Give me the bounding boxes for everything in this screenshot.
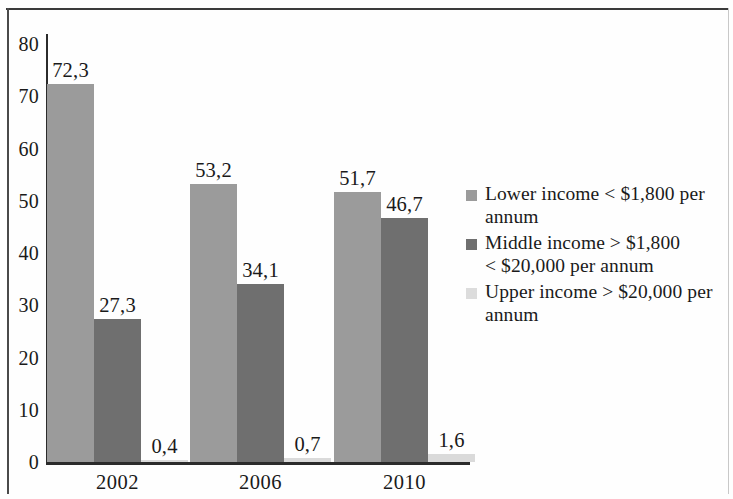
legend-color-swatch <box>466 190 477 201</box>
plot-area: 01020304050607080 72,327,30,453,234,10,7… <box>46 34 470 464</box>
page-border-top <box>6 8 728 10</box>
bar-value-label: 0,7 <box>294 434 320 455</box>
x-axis-line <box>46 462 470 465</box>
x-axis-tick-label: 2006 <box>239 472 282 493</box>
chart-page: 01020304050607080 72,327,30,453,234,10,7… <box>0 0 733 499</box>
legend-item-label: Lower income < $1,800 per annum <box>485 183 705 228</box>
legend-item: Lower income < $1,800 per annum <box>466 183 728 228</box>
legend-color-swatch <box>466 239 477 250</box>
y-axis-tick-label: 20 <box>18 347 39 367</box>
y-axis-tick-label: 10 <box>18 399 39 419</box>
bar-value-label: 72,3 <box>52 60 89 81</box>
bar <box>47 84 94 462</box>
bar <box>141 460 188 462</box>
page-border-right <box>728 8 729 494</box>
y-axis-tick-label: 80 <box>18 34 39 54</box>
bar <box>284 458 331 462</box>
bar-value-label: 46,7 <box>386 194 423 215</box>
bar <box>237 284 284 462</box>
y-axis-tick-label: 50 <box>18 190 39 210</box>
bar-value-label: 1,6 <box>438 430 464 451</box>
x-axis-tick-label: 2002 <box>96 472 139 493</box>
legend-item: Middle income > $1,800 < $20,000 per ann… <box>466 232 728 277</box>
y-axis-tick-label: 30 <box>18 295 39 315</box>
y-axis-tick-label: 40 <box>18 243 39 263</box>
legend-item-label: Middle income > $1,800 < $20,000 per ann… <box>485 232 680 277</box>
y-axis-tick-label: 70 <box>18 86 39 106</box>
chart-legend: Lower income < $1,800 per annumMiddle in… <box>466 183 728 331</box>
bar <box>334 192 381 462</box>
legend-color-swatch <box>466 288 477 299</box>
page-border-left <box>7 8 9 494</box>
y-axis-tick-label: 0 <box>29 452 39 472</box>
bar-value-label: 34,1 <box>242 260 279 281</box>
bar <box>428 454 475 462</box>
x-axis-tick-label: 2010 <box>383 472 426 493</box>
bar-value-label: 51,7 <box>339 168 376 189</box>
bar-value-label: 53,2 <box>195 160 232 181</box>
legend-item-label: Upper income > $20,000 per annum <box>485 281 713 326</box>
bar-value-label: 27,3 <box>99 295 136 316</box>
bar-value-label: 0,4 <box>151 436 177 457</box>
bar <box>190 184 237 462</box>
bar <box>381 218 428 462</box>
y-axis-tick-label: 60 <box>18 138 39 158</box>
legend-item: Upper income > $20,000 per annum <box>466 281 728 326</box>
bar <box>94 319 141 462</box>
